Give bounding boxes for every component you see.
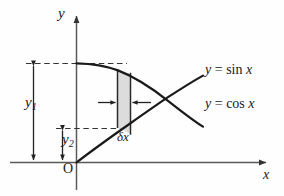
cosine-curve-label: y = cos x: [205, 97, 255, 111]
sine-curve-label: y = sin x: [205, 63, 252, 77]
y2-subscript: 2: [69, 138, 74, 149]
y1-label: y1: [25, 95, 37, 112]
y2-base: y: [62, 131, 69, 147]
trig-curves-figure: y x O y1 y2 δx y = sin x y = cos x: [0, 0, 284, 196]
sine-label-equals: =: [211, 62, 226, 77]
sine-label-var: x: [242, 62, 252, 77]
x-axis-label: x: [263, 168, 269, 182]
sine-label-fn: sin: [226, 62, 242, 77]
origin-label: O: [63, 162, 73, 176]
cosine-label-fn: cos: [226, 96, 245, 111]
y-axis-label: y: [58, 6, 65, 21]
y1-subscript: 1: [32, 101, 37, 112]
y2-label: y2: [62, 132, 74, 149]
cosine-label-equals: =: [211, 96, 226, 111]
sine-curve: [77, 76, 204, 163]
strip-width-label: δx: [117, 130, 129, 143]
y1-base: y: [25, 94, 32, 110]
cosine-label-var: x: [245, 96, 255, 111]
